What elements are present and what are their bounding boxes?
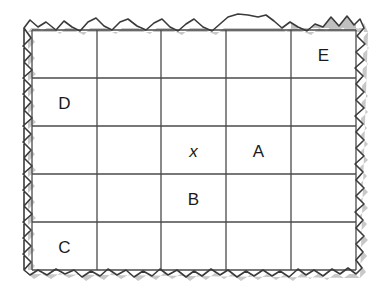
grid-diagram: EDxABC <box>0 0 384 294</box>
cell-label-b: B <box>188 190 199 209</box>
cell-label-e: E <box>318 46 329 65</box>
cell-label-d: D <box>58 94 70 113</box>
cell-label-c: C <box>58 238 70 257</box>
cell-label-a: A <box>253 142 265 161</box>
cell-labels-group: EDxABC <box>58 46 329 257</box>
figure-container: EDxABC <box>0 0 384 294</box>
cell-label-x: x <box>188 142 198 161</box>
